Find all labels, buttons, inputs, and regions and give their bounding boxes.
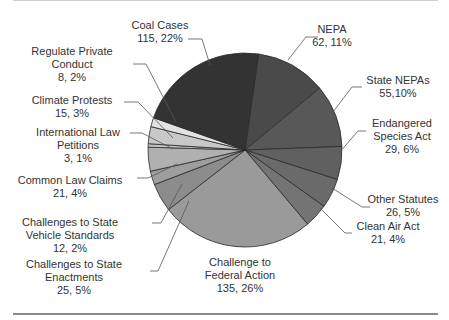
label-esa: EndangeredSpecies Act29, 6%	[366, 117, 438, 156]
label-clean-air-act: Clean Air Act21, 4%	[350, 220, 426, 246]
label-vehicle-standards: Challenges to StateVehicle Standards12, …	[14, 216, 126, 255]
label-climate-protests: Climate Protests15, 3%	[30, 94, 114, 120]
pie-slices	[148, 53, 342, 247]
label-intl-law: International LawPetitions3, 1%	[32, 126, 124, 165]
label-regulate-private: Regulate PrivateConduct8, 2%	[30, 45, 114, 84]
leader-state-nepas	[333, 87, 362, 112]
label-coal-cases: Coal Cases115, 22%	[127, 19, 193, 45]
label-state-nepas: State NEPAs55,10%	[362, 74, 434, 100]
label-state-enactments: Challenges to StateEnactments25, 5%	[18, 258, 130, 297]
label-other-statutes: Other Statutes26, 5%	[360, 193, 446, 219]
label-federal-action: Challenge toFederal Action135, 26%	[195, 256, 285, 295]
leader-esa	[339, 131, 366, 153]
label-common-law: Common Law Claims21, 4%	[14, 174, 126, 200]
label-nepa: NEPA62, 11%	[302, 23, 362, 49]
leader-caa	[320, 208, 352, 233]
